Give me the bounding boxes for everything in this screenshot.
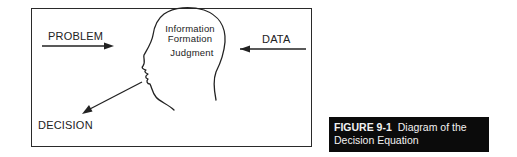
figure-caption: FIGURE 9-1Diagram of the Decision Equati…	[329, 117, 489, 152]
decision-arrow-icon	[82, 82, 142, 114]
caption-title-line2: Decision Equation	[334, 134, 489, 147]
head-text-formation: Formation	[158, 34, 222, 44]
data-label: DATA	[262, 33, 291, 45]
caption-line1: FIGURE 9-1Diagram of the	[334, 121, 489, 134]
figure-number: FIGURE 9-1	[334, 121, 392, 133]
head-text-judgment: Judgment	[162, 48, 222, 58]
caption-title-line1: Diagram of the	[398, 121, 467, 133]
problem-label: PROBLEM	[48, 30, 103, 42]
problem-arrow-icon	[42, 43, 114, 50]
data-arrow-icon	[240, 46, 306, 53]
decision-label: DECISION	[38, 119, 93, 131]
